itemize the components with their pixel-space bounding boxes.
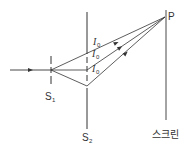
intensity-label: I 0 bbox=[91, 63, 100, 75]
light-rays bbox=[51, 17, 165, 86]
slit-label-s1: S 1 bbox=[45, 91, 56, 103]
diagram-svg: I 0 I 0 I 0 S 1 S 2 P 스크린 bbox=[0, 0, 193, 151]
svg-text:1: 1 bbox=[52, 97, 56, 103]
svg-text:S: S bbox=[45, 91, 52, 102]
intensity-label: I 0 bbox=[92, 36, 101, 48]
point-p-label: P bbox=[168, 11, 175, 22]
svg-text:2: 2 bbox=[89, 138, 93, 144]
svg-text:0: 0 bbox=[96, 69, 100, 75]
slit-label-s2: S 2 bbox=[82, 132, 93, 144]
incoming-beam bbox=[10, 68, 51, 72]
screen-label: 스크린 bbox=[152, 129, 179, 140]
svg-text:S: S bbox=[82, 132, 89, 143]
svg-text:0: 0 bbox=[96, 54, 100, 60]
intensity-label: I 0 bbox=[91, 48, 100, 60]
ray-arrows bbox=[113, 40, 129, 56]
arrow-icon bbox=[28, 68, 33, 72]
double-slit-diagram: I 0 I 0 I 0 S 1 S 2 P 스크린 bbox=[0, 0, 193, 151]
